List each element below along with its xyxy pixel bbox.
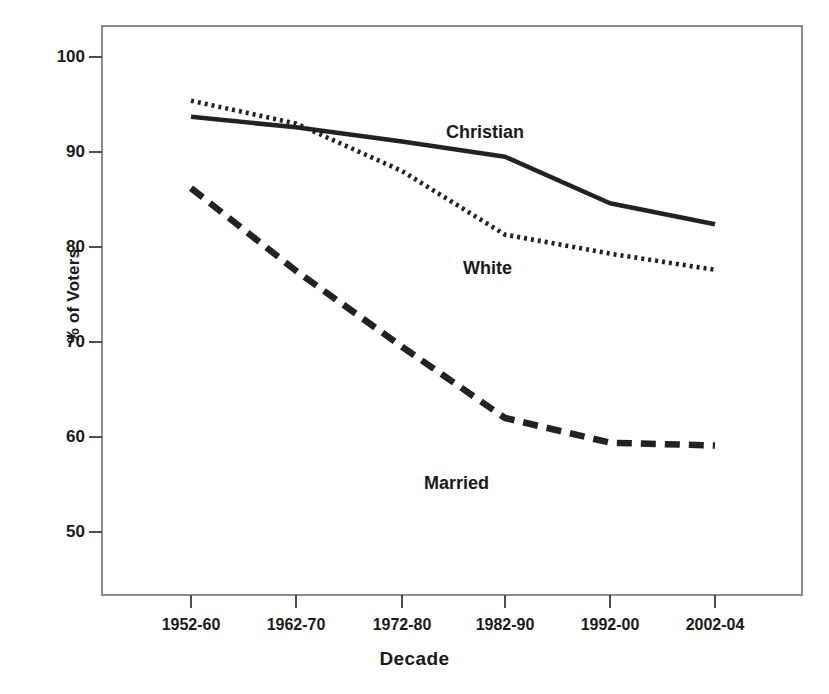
x-tick-label: 2002-04 (655, 617, 775, 633)
y-tick-label: 70 (31, 333, 85, 350)
series-label-white: White (463, 258, 512, 279)
chart-figure: % of Voters Decade 5060708090100 1952-60… (0, 0, 829, 694)
y-tick-label: 100 (31, 48, 85, 65)
x-tick-label: 1972-80 (342, 617, 462, 633)
x-axis-ticks (191, 595, 715, 608)
y-tick-label: 90 (31, 143, 85, 160)
x-tick-label: 1982-90 (445, 617, 565, 633)
line-chart-plot (0, 0, 829, 694)
y-tick-label: 50 (31, 523, 85, 540)
x-tick-label: 1952-60 (131, 617, 251, 633)
x-tick-label: 1962-70 (236, 617, 356, 633)
x-axis-title: Decade (0, 648, 829, 670)
series-line-married (191, 188, 715, 445)
series-label-married: Married (424, 473, 489, 494)
y-tick-label: 80 (31, 238, 85, 255)
series-label-christian: Christian (446, 122, 524, 143)
y-tick-label: 60 (31, 428, 85, 445)
x-tick-label: 1992-00 (550, 617, 670, 633)
plot-frame (102, 26, 802, 595)
y-axis-ticks (89, 57, 102, 532)
series-lines (191, 101, 715, 446)
